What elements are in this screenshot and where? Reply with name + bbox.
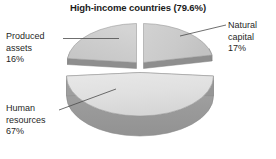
slice-value-natural-capital: 17% bbox=[228, 43, 257, 55]
pie-slice-human-resources bbox=[67, 73, 214, 136]
slice-label-natural-capital: Natural capital 17% bbox=[228, 20, 257, 55]
slice-value-human-resources: 67% bbox=[6, 126, 46, 138]
pie-chart-figure: High-income countries (79.6%) bbox=[0, 0, 276, 159]
slice-label-human-resources-line2: resources bbox=[6, 115, 46, 127]
slice-label-natural-capital-line2: capital bbox=[228, 32, 257, 44]
slice-label-produced-assets-line2: assets bbox=[6, 43, 45, 55]
pie-slice-produced-assets bbox=[68, 24, 137, 69]
slice-label-human-resources-line1: Human bbox=[6, 103, 46, 115]
slice-label-produced-assets: Produced assets 16% bbox=[6, 31, 45, 66]
slice-label-human-resources: Human resources 67% bbox=[6, 103, 46, 138]
slice-label-produced-assets-line1: Produced bbox=[6, 31, 45, 43]
pie-slice-natural-capital bbox=[144, 24, 213, 69]
slice-value-produced-assets: 16% bbox=[6, 54, 45, 66]
slice-label-natural-capital-line1: Natural bbox=[228, 20, 257, 32]
leader-line-natural-capital bbox=[180, 25, 226, 36]
